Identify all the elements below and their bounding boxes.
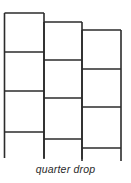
wallpaper-strip-1 — [5, 13, 45, 158]
quarter-drop-pattern-diagram — [0, 0, 131, 183]
wallpaper-strip-2 — [44, 22, 82, 159]
diagram-caption: quarter drop — [0, 163, 131, 175]
wallpaper-strip-3 — [82, 30, 121, 161]
